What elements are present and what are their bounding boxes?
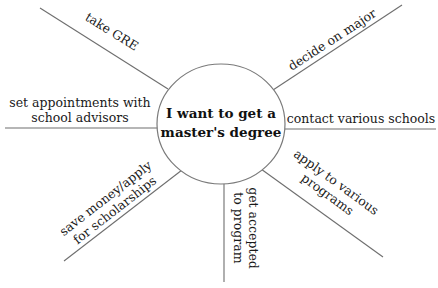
branch-text: to program [231, 178, 246, 278]
branch-text: get accepted [246, 178, 261, 278]
branch-text: school advisors [5, 110, 155, 125]
branch-text: contact various schools [286, 111, 436, 126]
branch-label-contact-schools: contact various schools [286, 111, 436, 126]
center-line-1: I want to get a [157, 104, 285, 123]
branch-label-get-accepted: get accepted to program [231, 178, 261, 278]
branch-line-decide-major [273, 5, 402, 90]
center-line-2: master's degree [157, 123, 285, 142]
branch-text: set appointments with [5, 95, 155, 110]
mind-map-diagram: I want to get a master's degree take GRE… [0, 0, 438, 288]
branch-label-set-appointments: set appointments with school advisors [5, 95, 155, 125]
center-node-label: I want to get a master's degree [157, 104, 285, 142]
